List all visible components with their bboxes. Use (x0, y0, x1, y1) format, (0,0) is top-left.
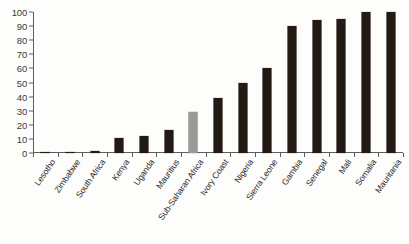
bars-layer (33, 12, 403, 153)
bar (189, 112, 198, 153)
bar-slot (378, 12, 403, 153)
x-axis-label: Lesotho (33, 158, 57, 187)
y-tick-label: 30 (3, 105, 27, 116)
y-tick-70: 70 (3, 49, 33, 60)
x-axis-label: Nigeria (233, 158, 255, 184)
bar-slot (33, 12, 58, 153)
x-tick-mark (230, 153, 231, 157)
y-tick-20: 20 (3, 119, 33, 130)
bar-slot (132, 12, 157, 153)
x-tick-mark (329, 153, 330, 157)
bar-slot (181, 12, 206, 153)
y-tick-100: 100 (3, 7, 33, 18)
x-tick-mark (82, 153, 83, 157)
bar-slot (255, 12, 280, 153)
y-tick-label: 100 (3, 7, 27, 18)
x-tick-mark (378, 153, 379, 157)
bar (386, 12, 395, 153)
x-tick-mark (206, 153, 207, 157)
bar-slot (354, 12, 379, 153)
bar (115, 138, 124, 154)
x-axis-label: Mali (338, 158, 354, 175)
x-tick-mark (107, 153, 108, 157)
bar-chart-figure: 0102030405060708090100 LesothoZimbabweSo… (0, 0, 409, 244)
x-axis-label: Uganda (132, 158, 156, 187)
bar-slot (58, 12, 83, 153)
x-tick-mark (255, 153, 256, 157)
y-tick-0: 0 (3, 148, 33, 159)
x-tick-mark (304, 153, 305, 157)
x-axis-label: Somalia (354, 158, 378, 188)
bar (41, 152, 50, 153)
bar-slot (107, 12, 132, 153)
x-axis-label: Gambia (280, 158, 304, 187)
x-tick-mark (403, 153, 404, 157)
bar (213, 98, 222, 153)
bar-slot (156, 12, 181, 153)
bar-slot (304, 12, 329, 153)
bar (312, 20, 321, 153)
x-tick-mark (58, 153, 59, 157)
y-tick-10: 10 (3, 133, 33, 144)
y-tick-80: 80 (3, 35, 33, 46)
y-tick-label: 60 (3, 63, 27, 74)
y-tick-30: 30 (3, 105, 33, 116)
bar (139, 136, 148, 153)
bar-slot (206, 12, 231, 153)
y-tick-label: 90 (3, 21, 27, 32)
bar-slot (329, 12, 354, 153)
bar (65, 152, 74, 153)
x-axis-labels: LesothoZimbabweSouth AfricaKenyaUgandaMa… (33, 158, 403, 244)
y-tick-60: 60 (3, 63, 33, 74)
x-tick-mark (132, 153, 133, 157)
x-tick-mark (156, 153, 157, 157)
bar (90, 151, 99, 153)
x-tick-mark (354, 153, 355, 157)
y-tick-label: 0 (3, 148, 27, 159)
bar-slot (230, 12, 255, 153)
y-tick-label: 50 (3, 77, 27, 88)
x-tick-mark (280, 153, 281, 157)
y-tick-40: 40 (3, 91, 33, 102)
bar (361, 12, 370, 153)
y-tick-label: 10 (3, 133, 27, 144)
x-tick-mark (33, 153, 34, 157)
y-tick-label: 40 (3, 91, 27, 102)
y-tick-90: 90 (3, 21, 33, 32)
y-tick-label: 80 (3, 35, 27, 46)
y-tick-label: 20 (3, 119, 27, 130)
bar (238, 83, 247, 154)
bar (263, 68, 272, 153)
bar (164, 130, 173, 153)
bar-slot (82, 12, 107, 153)
y-tick-50: 50 (3, 77, 33, 88)
x-tick-mark (181, 153, 182, 157)
x-axis-label: Kenya (111, 158, 132, 182)
x-axis-label: Senegal (304, 158, 329, 188)
bar (337, 19, 346, 153)
bar (287, 26, 296, 153)
bar-slot (280, 12, 305, 153)
y-tick-label: 70 (3, 49, 27, 60)
